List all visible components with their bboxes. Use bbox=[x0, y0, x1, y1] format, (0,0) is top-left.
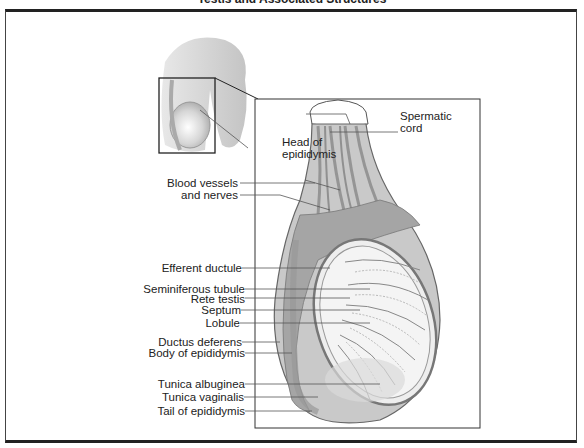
label-spermatic-cord: Spermatic cord bbox=[400, 110, 452, 134]
label-septum: Septum bbox=[201, 304, 241, 316]
label-line: cord bbox=[400, 122, 452, 134]
label-blood-vessels-nerves: Blood vessels and nerves bbox=[167, 177, 238, 201]
label-tail-of-epididymis: Tail of epididymis bbox=[157, 405, 245, 417]
testis-illustration bbox=[0, 0, 584, 448]
label-tunica-albuginea: Tunica albuginea bbox=[158, 378, 245, 390]
label-lobule: Lobule bbox=[205, 317, 240, 329]
label-tunica-vaginalis: Tunica vaginalis bbox=[162, 391, 244, 403]
label-line: Blood vessels bbox=[167, 177, 238, 189]
label-line: and nerves bbox=[167, 189, 238, 201]
label-efferent-ductule: Efferent ductule bbox=[162, 262, 242, 274]
overview-figure bbox=[159, 38, 258, 170]
label-body-of-epididymis: Body of epididymis bbox=[148, 347, 245, 359]
label-head-of-epididymis: Head of epididymis bbox=[282, 136, 336, 160]
label-line: epididymis bbox=[282, 148, 336, 160]
label-line: Spermatic bbox=[400, 110, 452, 122]
label-line: Head of bbox=[282, 136, 336, 148]
